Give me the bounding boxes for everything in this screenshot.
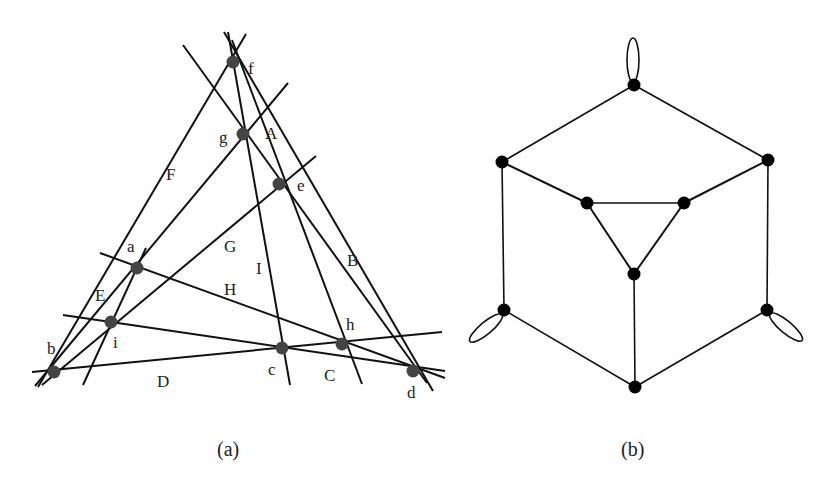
line-I — [228, 32, 290, 385]
vertex-bottom — [629, 381, 642, 394]
label-line-G: G — [224, 237, 236, 256]
point-c — [276, 342, 289, 355]
edge-top-upperleft — [502, 85, 634, 162]
edge-upperleft-innerleft — [502, 162, 587, 203]
point-h — [336, 338, 349, 351]
edge-innerright-innerbottom — [634, 203, 684, 274]
label-point-d: d — [407, 383, 416, 402]
vertex-top — [628, 79, 641, 92]
edge-top-upperright — [634, 85, 768, 160]
line-G — [42, 156, 316, 385]
label-point-g: g — [219, 128, 228, 147]
caption-a: (a) — [217, 438, 239, 461]
vertex-lower-left — [498, 304, 511, 317]
label-point-i: i — [113, 333, 118, 352]
vertex-inner-bottom — [628, 268, 641, 281]
point-e — [273, 178, 286, 191]
edge-lowerright-bottom — [635, 310, 767, 387]
label-point-c: c — [268, 360, 276, 379]
label-line-D: D — [157, 372, 169, 391]
label-line-A: A — [265, 124, 278, 143]
point-d — [407, 365, 420, 378]
point-f — [227, 56, 240, 69]
label-line-B: B — [347, 251, 358, 270]
point-g — [237, 128, 250, 141]
label-line-F: F — [166, 165, 175, 184]
point-i — [105, 316, 118, 329]
line-F — [35, 83, 288, 386]
loop-lower-left — [466, 310, 506, 346]
vertex-lower-right — [761, 304, 774, 317]
edge-upperright-lowerright — [767, 160, 768, 310]
edge-innerleft-innerbottom — [587, 203, 634, 274]
edge-upperright-innerright — [684, 160, 768, 203]
caption-b: (b) — [621, 438, 644, 461]
line-A — [183, 45, 427, 383]
label-point-f: f — [248, 59, 254, 78]
figure-canvas: f g e a i b c h d A B C D E F G H I (a) — [0, 0, 827, 486]
line-B — [224, 32, 433, 391]
line-f-h — [232, 40, 362, 384]
loop-top — [627, 38, 639, 82]
label-line-I: I — [256, 259, 262, 278]
label-line-H: H — [224, 280, 236, 299]
edge-upperleft-lowerleft — [502, 162, 504, 310]
vertex-upper-right — [762, 154, 775, 167]
edge-innerbottom-bottom — [634, 274, 635, 387]
vertex-upper-left — [496, 156, 509, 169]
figure-b-graph-edges — [502, 85, 768, 387]
label-point-e: e — [297, 176, 305, 195]
line-f-a-b — [38, 34, 246, 387]
label-line-C: C — [324, 366, 335, 385]
label-point-h: h — [346, 315, 355, 334]
label-point-a: a — [127, 237, 135, 256]
figure-a-line-labels: A B C D E F G H I — [95, 124, 358, 391]
line-D — [32, 332, 442, 372]
label-line-E: E — [95, 286, 105, 305]
vertex-inner-right — [678, 197, 691, 210]
figure-a-point-labels: f g e a i b c h d — [47, 59, 416, 402]
point-b — [48, 366, 61, 379]
figure-a-points — [48, 56, 420, 379]
label-point-b: b — [47, 339, 56, 358]
point-a — [131, 262, 144, 275]
edge-lowerleft-bottom — [504, 310, 635, 387]
figure-a-line-arrangement — [32, 32, 445, 391]
loop-lower-right — [766, 309, 806, 345]
vertex-inner-left — [581, 197, 594, 210]
